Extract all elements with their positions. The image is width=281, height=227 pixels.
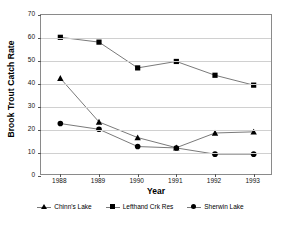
data-point-marker: [134, 134, 140, 140]
legend-swatch: [37, 203, 51, 211]
legend-marker-circle-icon: [191, 204, 196, 209]
y-axis-title-text: Brook Trout Catch Rate: [6, 40, 16, 137]
y-axis-tick-label: 10: [28, 149, 35, 156]
legend-label: Sherwin Lake: [204, 203, 243, 211]
legend-swatch: [187, 203, 201, 211]
y-axis-tick-label: 70: [28, 11, 35, 18]
chart-legend: Chinn's LakeLefthand Crk ResSherwin Lake: [0, 203, 281, 211]
data-point-marker: [135, 144, 141, 150]
gridline: [41, 107, 271, 108]
y-axis-tick-mark: [38, 38, 41, 39]
x-axis-tick-label: 1988: [52, 177, 66, 184]
y-axis-tick-labels: 010203040506070: [18, 0, 38, 180]
legend-marker-triangle-icon: [41, 204, 47, 209]
legend-entry[interactable]: Sherwin Lake: [187, 203, 243, 211]
x-axis-tick-label: 1992: [207, 177, 221, 184]
legend-label: Lefthand Crk Res: [123, 203, 174, 211]
legend-swatch: [106, 203, 120, 211]
x-axis-title: Year: [40, 186, 272, 196]
x-axis-tick-label: 1989: [91, 177, 105, 184]
data-point-marker: [174, 145, 180, 151]
data-point-marker: [135, 65, 140, 70]
gridline: [41, 84, 271, 85]
y-axis-tick-label: 20: [28, 126, 35, 133]
y-axis-tick-mark: [38, 107, 41, 108]
legend-entry[interactable]: Lefthand Crk Res: [106, 203, 174, 211]
gridline: [41, 130, 271, 131]
y-axis-tick-label: 30: [28, 103, 35, 110]
y-axis-tick-label: 40: [28, 80, 35, 87]
legend-marker-square-icon: [110, 204, 115, 209]
y-axis-tick-mark: [38, 61, 41, 62]
y-axis-tick-label: 60: [28, 34, 35, 41]
series-layer: [41, 15, 273, 176]
series-line: [60, 124, 253, 155]
x-axis-tick-label: 1991: [168, 177, 182, 184]
y-axis-tick-label: 0: [31, 172, 35, 179]
y-axis-tick-mark: [38, 130, 41, 131]
data-point-marker: [212, 73, 217, 78]
gridline: [41, 61, 271, 62]
series-line: [60, 78, 253, 147]
legend-entry[interactable]: Chinn's Lake: [37, 203, 91, 211]
legend-label: Chinn's Lake: [54, 203, 91, 211]
gridline: [41, 38, 271, 39]
data-point-marker: [58, 121, 64, 127]
data-point-marker: [57, 75, 63, 81]
y-axis-tick-mark: [38, 15, 41, 16]
y-axis-tick-label: 50: [28, 57, 35, 64]
y-axis-tick-mark: [38, 84, 41, 85]
plot-area: [40, 14, 272, 175]
x-axis-tick-label: 1990: [129, 177, 143, 184]
x-axis-tick-label: 1993: [245, 177, 259, 184]
gridline: [41, 153, 271, 154]
data-point-marker: [96, 40, 101, 45]
y-axis-tick-mark: [38, 153, 41, 154]
chart-figure: Brook Trout Catch Rate 010203040506070 1…: [0, 0, 281, 227]
